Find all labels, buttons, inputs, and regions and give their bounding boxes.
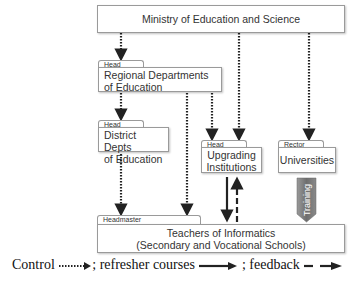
ministry-box: Ministry of Education and Science	[97, 5, 345, 33]
regional-label-line1: Regional Departments	[104, 69, 216, 81]
legend-refresher-label: refresher courses	[100, 257, 195, 272]
legend-sep2: ;	[242, 257, 246, 272]
teachers-label-line2: (Secondary and Vocational Schools)	[98, 239, 344, 251]
teachers-box: Teachers of Informatics (Secondary and V…	[97, 224, 345, 253]
legend-control-label: Control	[12, 257, 55, 272]
district-label-line1: District Depts	[104, 129, 163, 153]
legend-refresher-swatch	[198, 261, 238, 271]
legend-sep1: ;	[92, 257, 96, 272]
universities-box: Universities	[278, 147, 336, 173]
legend-feedback-label: feedback	[249, 257, 300, 272]
teachers-label-line1: Teachers of Informatics	[98, 227, 344, 239]
regional-box: Regional Departments of Education	[98, 67, 222, 92]
universities-label: Universities	[280, 154, 334, 166]
district-box: District Depts of Education	[98, 127, 169, 152]
district-label-line2: of Education	[104, 153, 163, 165]
upgrading-label-line1: Upgrading	[206, 149, 257, 161]
legend-control-swatch	[58, 261, 92, 271]
legend: Control ; refresher courses ; feedback	[12, 257, 343, 273]
upgrading-label-line2: Institutions	[206, 161, 257, 173]
regional-label-line2: of Education	[104, 81, 216, 93]
ministry-label: Ministry of Education and Science	[142, 13, 300, 25]
legend-feedback-swatch	[303, 261, 343, 271]
upgrading-box: Upgrading Institutions	[201, 147, 262, 173]
training-label: Training	[302, 184, 312, 216]
